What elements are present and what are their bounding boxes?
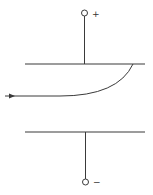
beam-direction-arrow-icon xyxy=(9,94,15,99)
negative-label: − xyxy=(93,177,101,187)
positive-label: + xyxy=(92,9,100,19)
beam-path xyxy=(5,64,133,96)
negative-terminal-icon xyxy=(83,179,89,185)
positive-terminal-icon xyxy=(82,10,88,16)
deflection-diagram: + − xyxy=(0,0,153,195)
